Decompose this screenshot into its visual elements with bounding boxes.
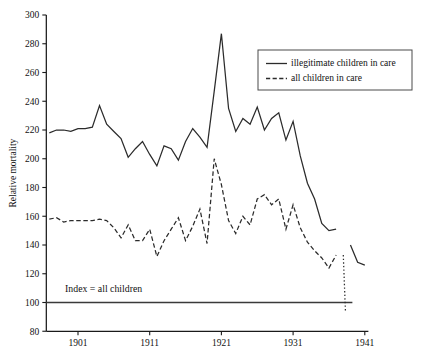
- legend-label-all-children: all children in care: [291, 73, 362, 83]
- chart-legend: illegitimate children in care all childr…: [258, 50, 412, 90]
- x-tick-label: 1921: [212, 338, 231, 348]
- y-axis-tick-labels: 80100120140160180200220240260280300: [25, 10, 40, 336]
- x-tick-label: 1941: [355, 338, 374, 348]
- series-all-children-in-care-main-segment: [49, 159, 336, 268]
- series-illegitimate-children-in-care-late-segment: [350, 245, 364, 265]
- x-tick-label: 1901: [69, 338, 88, 348]
- y-tick-label: 100: [25, 298, 40, 308]
- x-tick-label: 1931: [284, 338, 303, 348]
- y-tick-label: 160: [25, 212, 40, 222]
- y-tick-label: 240: [25, 97, 40, 107]
- y-tick-label: 180: [25, 183, 40, 193]
- legend-box: [258, 50, 412, 90]
- y-tick-label: 260: [25, 68, 40, 78]
- y-tick-label: 140: [25, 240, 40, 250]
- y-tick-label: 120: [25, 269, 40, 279]
- x-axis-tick-labels: 19011911192119311941: [69, 338, 375, 348]
- y-tick-label: 200: [25, 154, 40, 164]
- figure-container: 80100120140160180200220240260280300 1901…: [0, 0, 426, 363]
- index-reference-label: Index = all children: [65, 283, 142, 294]
- relative-mortality-line-chart: 80100120140160180200220240260280300 1901…: [0, 0, 426, 363]
- y-tick-label: 220: [25, 125, 40, 135]
- legend-label-illegitimate-children: illegitimate children in care: [291, 58, 396, 68]
- y-tick-label: 300: [25, 10, 40, 20]
- y-tick-label: 280: [25, 39, 40, 49]
- y-tick-label: 80: [30, 327, 40, 337]
- y-axis-title: Relative mortality: [8, 138, 18, 207]
- x-tick-label: 1911: [140, 338, 159, 348]
